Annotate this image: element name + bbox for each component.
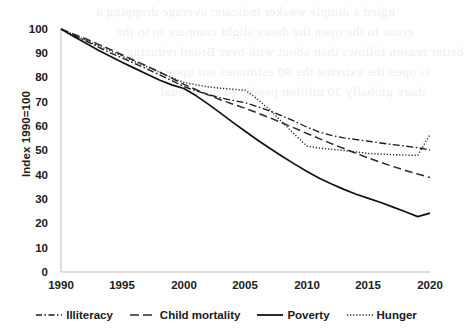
x-tick-label: 2015 xyxy=(338,279,398,291)
x-tick-label: 1990 xyxy=(31,279,91,291)
legend-item-poverty[interactable]: Poverty xyxy=(257,309,329,321)
chart-legend: Illiteracy Child mortality Poverty Hunge… xyxy=(0,304,453,326)
y-tick-label: 50 xyxy=(10,144,48,156)
dash-dot-line-icon xyxy=(36,310,62,320)
x-tick-label: 2000 xyxy=(154,279,214,291)
legend-item-illiteracy[interactable]: Illiteracy xyxy=(36,309,113,321)
x-tick-label: 2010 xyxy=(277,279,337,291)
dashed-line-icon xyxy=(130,310,156,320)
x-tick-label: 1995 xyxy=(92,279,152,291)
y-tick-label: 30 xyxy=(10,193,48,205)
y-tick-label: 90 xyxy=(10,47,48,59)
legend-label: Poverty xyxy=(287,309,329,321)
y-tick-label: 80 xyxy=(10,71,48,83)
series-line-poverty xyxy=(61,29,430,217)
y-tick-label: 10 xyxy=(10,242,48,254)
y-tick-label: 60 xyxy=(10,120,48,132)
y-tick-label: 40 xyxy=(10,169,48,181)
dotted-line-icon xyxy=(347,310,373,320)
y-tick-label: 0 xyxy=(10,266,48,278)
y-tick-label: 20 xyxy=(10,217,48,229)
legend-label: Child mortality xyxy=(160,309,241,321)
x-tick-label: 2020 xyxy=(400,279,460,291)
y-tick-label: 100 xyxy=(10,23,48,35)
y-tick-label: 70 xyxy=(10,96,48,108)
legend-item-hunger[interactable]: Hunger xyxy=(347,309,417,321)
solid-line-icon xyxy=(257,310,283,320)
series-line-hunger xyxy=(61,29,430,155)
legend-label: Illiteracy xyxy=(66,309,113,321)
legend-item-child-mortality[interactable]: Child mortality xyxy=(130,309,241,321)
series-line-child-mortality xyxy=(61,29,430,177)
x-tick-label: 2005 xyxy=(215,279,275,291)
legend-label: Hunger xyxy=(377,309,417,321)
